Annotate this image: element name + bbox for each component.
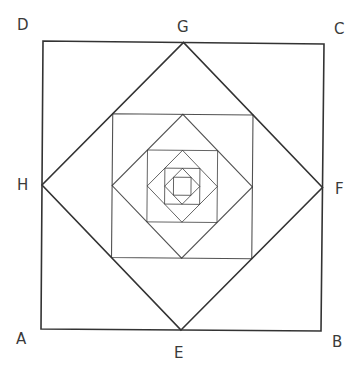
nested-square-6 (147, 150, 217, 222)
label-D: D (17, 16, 29, 34)
nested-square-4 (112, 114, 252, 258)
square-ABCD (41, 41, 324, 331)
label-F: F (335, 180, 344, 198)
nested-square-8 (165, 168, 200, 204)
nested-square-9 (173, 177, 191, 195)
label-E: E (174, 344, 183, 362)
label-G: G (177, 18, 189, 36)
label-H: H (17, 176, 28, 194)
label-A: A (16, 330, 27, 348)
label-C: C (334, 20, 344, 38)
nested-square-7 (165, 168, 200, 204)
nested-square-3 (112, 114, 254, 259)
label-B: B (332, 333, 342, 351)
square-EFGH (42, 43, 323, 331)
nested-squares-diagram: D G C H F A E B (0, 0, 362, 367)
nested-square-5 (147, 150, 218, 223)
